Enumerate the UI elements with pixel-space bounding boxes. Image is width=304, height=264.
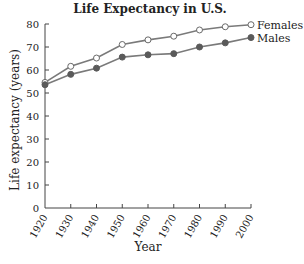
y-tick-label: 40 bbox=[26, 111, 39, 122]
x-tick-label: 1950 bbox=[105, 213, 127, 241]
x-tick-label: 1940 bbox=[79, 213, 101, 241]
x-tick-label: 1980 bbox=[182, 213, 204, 241]
legend-label-females: Females bbox=[257, 19, 304, 32]
x-tick-label: 1920 bbox=[27, 213, 49, 241]
data-point-females bbox=[197, 27, 203, 33]
series-line-males bbox=[45, 38, 251, 85]
y-tick-label: 80 bbox=[26, 19, 39, 30]
y-tick-label: 70 bbox=[26, 42, 39, 53]
data-point-males bbox=[42, 82, 48, 88]
y-axis-label: Life expectancy (years) bbox=[8, 49, 22, 191]
data-point-males bbox=[222, 40, 228, 46]
x-tick-label: 1960 bbox=[130, 213, 152, 241]
y-tick-label: 10 bbox=[26, 180, 39, 191]
x-tick-label: 1990 bbox=[208, 213, 230, 241]
data-point-females bbox=[94, 55, 100, 61]
life-expectancy-chart: Life Expectancy in U.S. Life expectancy … bbox=[0, 0, 304, 264]
data-point-females bbox=[171, 33, 177, 39]
data-point-males bbox=[145, 52, 151, 58]
legend: FemalesMales bbox=[257, 19, 304, 45]
chart-canvas: Life Expectancy in U.S. Life expectancy … bbox=[0, 0, 304, 264]
x-tick-label: 2000 bbox=[233, 213, 255, 241]
y-tick-label: 20 bbox=[26, 157, 39, 168]
data-point-females bbox=[68, 63, 74, 69]
x-tick-label: 1970 bbox=[156, 213, 178, 241]
y-tick-label: 0 bbox=[33, 203, 39, 214]
series-group bbox=[42, 22, 254, 88]
x-axis-label: Year bbox=[134, 240, 162, 254]
data-point-males bbox=[94, 65, 100, 71]
data-point-males bbox=[68, 71, 74, 77]
data-point-females bbox=[222, 24, 228, 30]
y-tick-label: 30 bbox=[26, 134, 39, 145]
y-tick-label: 60 bbox=[26, 65, 39, 76]
data-point-females bbox=[145, 37, 151, 43]
data-point-males bbox=[197, 44, 203, 50]
x-tick-label: 1930 bbox=[53, 213, 75, 241]
y-ticks: 01020304050607080 bbox=[26, 19, 49, 214]
data-point-males bbox=[171, 51, 177, 57]
legend-label-males: Males bbox=[257, 32, 291, 45]
data-point-males bbox=[248, 35, 254, 41]
chart-title: Life Expectancy in U.S. bbox=[73, 2, 227, 16]
y-tick-label: 50 bbox=[26, 88, 39, 99]
data-point-females bbox=[248, 22, 254, 28]
x-ticks: 192019301940195019601970198019902000 bbox=[27, 204, 255, 240]
data-point-females bbox=[119, 41, 125, 47]
data-point-males bbox=[119, 54, 125, 60]
